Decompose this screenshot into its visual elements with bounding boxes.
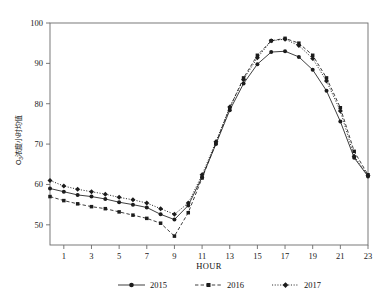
legend-label-2017: 2017 xyxy=(304,280,321,290)
series-line-2017 xyxy=(50,39,368,214)
legend-label-2016: 2016 xyxy=(227,280,244,290)
data-point-2015 xyxy=(103,197,107,201)
data-point-2017 xyxy=(144,201,149,206)
legend-item-2015[interactable]: 2015 xyxy=(118,280,167,290)
data-point-2016 xyxy=(117,210,121,214)
data-point-2016 xyxy=(90,205,94,209)
data-point-2015 xyxy=(48,186,52,190)
data-point-2015 xyxy=(255,62,259,66)
data-point-2016 xyxy=(145,217,149,221)
y-axis-title: O3浓度小时均值 xyxy=(14,115,24,165)
x-tick-label: 13 xyxy=(225,251,234,261)
data-point-2016 xyxy=(104,207,108,211)
y-tick-label: 100 xyxy=(30,18,43,28)
data-point-2015 xyxy=(311,68,315,72)
data-point-2016 xyxy=(76,202,80,206)
x-tick-label: 21 xyxy=(336,251,345,261)
x-tick-label: 15 xyxy=(253,251,262,261)
x-tick-label: 1 xyxy=(62,251,66,261)
data-point-2015 xyxy=(269,50,273,54)
data-point-2017 xyxy=(61,184,66,189)
legend-item-2016[interactable]: 2016 xyxy=(195,280,244,290)
y-tick-label: 80 xyxy=(35,99,44,109)
data-point-2016 xyxy=(173,234,177,238)
data-point-2015 xyxy=(159,212,163,216)
x-tick-label: 9 xyxy=(172,251,176,261)
data-point-2016 xyxy=(131,213,135,217)
data-point-2015 xyxy=(242,82,246,86)
x-tick-label: 19 xyxy=(308,251,317,261)
legend-marker-2016 xyxy=(206,283,210,287)
series-2017 xyxy=(48,37,371,217)
series-line-2016 xyxy=(50,38,368,236)
y-tick-label: 60 xyxy=(35,179,44,189)
data-point-2016 xyxy=(159,221,163,225)
data-point-2015 xyxy=(131,203,135,207)
legend-marker-2015 xyxy=(129,283,134,288)
data-point-2017 xyxy=(130,197,135,202)
y-tick-label: 70 xyxy=(35,139,44,149)
y-tick-label: 90 xyxy=(35,58,44,68)
data-point-2015 xyxy=(145,205,149,209)
data-point-2017 xyxy=(89,189,94,194)
data-point-2015 xyxy=(325,89,329,93)
line-chart: 5060708090100 1357911131517192123 O3浓度小时… xyxy=(0,0,382,299)
legend-item-2017[interactable]: 2017 xyxy=(272,280,321,290)
data-point-2015 xyxy=(338,119,342,123)
x-axis-ticks: 1357911131517192123 xyxy=(62,245,373,261)
data-point-2015 xyxy=(297,55,301,59)
series-line-2015 xyxy=(50,51,368,219)
data-point-2017 xyxy=(48,178,53,183)
x-tick-label: 5 xyxy=(117,251,121,261)
y-axis-title-text: O3浓度小时均值 xyxy=(14,115,24,165)
x-tick-label: 7 xyxy=(145,251,149,261)
legend-label-2015: 2015 xyxy=(150,280,167,290)
series-2015 xyxy=(48,49,370,221)
data-point-2015 xyxy=(117,200,121,204)
data-point-2015 xyxy=(76,193,80,197)
data-point-2016 xyxy=(62,199,66,203)
x-tick-label: 17 xyxy=(281,251,290,261)
x-axis-title: HOUR xyxy=(196,261,221,271)
plot-frame xyxy=(50,23,368,245)
data-point-2017 xyxy=(172,212,177,217)
legend-marker-2017 xyxy=(283,282,289,288)
chart-legend: 201520162017 xyxy=(118,280,321,290)
data-point-2015 xyxy=(172,218,176,222)
data-point-2015 xyxy=(89,195,93,199)
x-tick-label: 3 xyxy=(89,251,93,261)
y-tick-label: 50 xyxy=(35,220,44,230)
data-point-2017 xyxy=(158,206,163,211)
data-point-2017 xyxy=(103,192,108,197)
data-point-2017 xyxy=(75,187,80,192)
data-point-2015 xyxy=(62,190,66,194)
data-point-2016 xyxy=(48,195,52,199)
data-point-2017 xyxy=(117,195,122,200)
series-2016 xyxy=(48,37,370,238)
x-tick-label: 23 xyxy=(364,251,373,261)
y-axis-ticks: 5060708090100 xyxy=(30,18,50,230)
y-axis-title-main: 浓度小时均值 xyxy=(14,115,23,157)
data-series-group xyxy=(48,37,371,238)
x-tick-label: 11 xyxy=(198,251,206,261)
data-point-2015 xyxy=(283,49,287,53)
data-point-2016 xyxy=(187,211,191,215)
chart-container: 5060708090100 1357911131517192123 O3浓度小时… xyxy=(0,0,382,299)
